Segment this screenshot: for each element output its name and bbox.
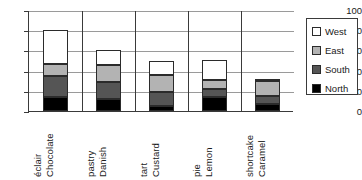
bar-segment-west [202,60,227,80]
category-separator [241,11,242,112]
legend-item-label: East [325,46,344,56]
gridline [29,31,294,32]
legend-item-label: North [325,84,348,94]
x-axis-label-line: shortcake [244,135,255,177]
bar-segment-south [43,76,68,97]
x-axis-label-line: pastry [85,151,96,177]
bar-segment-west [255,79,280,81]
x-axis-label: Chocolateéclair [26,117,84,177]
legend-item[interactable]: South [312,64,350,75]
legend-swatch-west [312,27,321,36]
x-axis-label-line: éclair [32,154,43,177]
plot-area [28,11,293,112]
legend-item-label: West [325,27,346,37]
bar-segment-west [149,61,174,75]
x-axis-label-line: Custard [150,143,161,177]
bar-segment-east [96,65,121,82]
y-axis-tick-label: 0 [336,107,362,117]
bar-segment-east [43,64,68,77]
category-separator [135,11,136,112]
bar-segment-north [149,106,174,111]
bar-segment-south [255,96,280,104]
legend-swatch-south [312,65,321,74]
x-axis-label: Custardtart [132,117,190,177]
legend-item[interactable]: West [312,26,346,37]
x-axis-label-line: pie [191,164,202,177]
bar-segment-west [96,50,121,65]
x-axis-label-line: tart [138,163,149,177]
legend-item[interactable]: East [312,45,344,56]
bar-segment-south [202,89,227,97]
x-axis-label-line: Chocolate [44,133,55,177]
legend: WestEastSouthNorth [306,18,358,95]
legend-swatch-north [312,84,321,93]
bar-segment-west [43,30,68,63]
legend-swatch-east [312,46,321,55]
bar-segment-south [149,92,174,106]
bar-segment-east [202,80,227,90]
x-axis-label: Lemonpie [185,117,243,177]
category-separator [82,11,83,112]
x-axis-label: Danishpastry [79,117,137,177]
category-separator [188,11,189,112]
gridline [29,51,294,52]
x-axis-label-line: Caramel [256,140,267,177]
bar-segment-south [96,82,121,99]
legend-item-label: South [325,65,350,75]
bar-segment-east [149,75,174,92]
x-axis-label-line: Lemon [203,147,214,177]
bar-segment-north [202,97,227,111]
legend-item[interactable]: North [312,83,348,94]
bar-segment-east [255,81,280,97]
bar-segment-north [255,104,280,111]
bar-segment-north [96,99,121,111]
stacked-bar-chart: 100806040200 ChocolateéclairDanishpastry… [0,0,362,180]
x-axis-label-line: Danish [97,147,108,177]
y-axis-tick-mark [24,112,29,113]
gridline [29,11,294,12]
x-axis-label: Caramelshortcake [238,117,296,177]
y-axis-tick-label: 100 [336,6,362,16]
bar-segment-north [43,97,68,111]
